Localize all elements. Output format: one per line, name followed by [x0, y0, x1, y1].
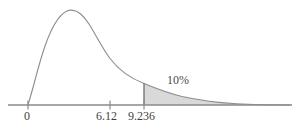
tail-area-label: 10% [167, 74, 189, 86]
plot-canvas [0, 0, 301, 126]
x-tick-label-0: 0 [24, 110, 30, 122]
x-tick-label-9-236: 9.236 [128, 110, 155, 122]
distribution-figure: 0 6.12 9.236 10% [0, 0, 301, 126]
x-tick-label-6-12: 6.12 [96, 110, 117, 122]
